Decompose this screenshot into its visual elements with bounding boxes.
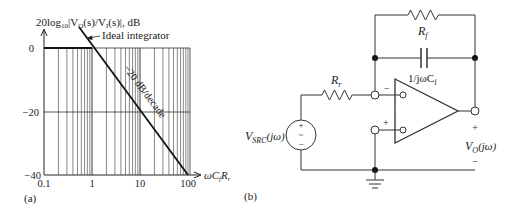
panel-b-label: (b) [244, 190, 257, 203]
x-tick-10: 10 [135, 178, 146, 189]
x-tick-0.1: 0.1 [37, 178, 50, 189]
integrator-circuit [286, 10, 479, 188]
slope-label: −20 dB/decade [121, 63, 168, 120]
y-axis-title: 20log10|VO(s)/VI(s)|, dB [36, 16, 140, 30]
x-axis-title: ωCfRr [204, 169, 231, 183]
source-plus: + [298, 120, 303, 130]
x-tick-1: 1 [89, 178, 94, 189]
opamp-triangle-icon [395, 79, 458, 143]
y-tick-minus20: −20 [23, 107, 39, 118]
ground-icon [366, 180, 384, 188]
opamp-noninv-pin [400, 127, 406, 133]
rf-label: Rf [417, 24, 429, 40]
rr-label: Rr [330, 73, 342, 89]
cf-label: 1/jωCf [408, 72, 437, 87]
ideal-integrator-label: Ideal integrator [102, 29, 170, 41]
opamp-plus-sign: + [383, 117, 389, 128]
x-tick-100: 100 [180, 178, 196, 189]
vo-label: VO(jω) [465, 139, 497, 155]
input-resistor-wire [301, 90, 371, 120]
panel-a-label: (a) [24, 192, 37, 205]
noninverting-terminal [371, 126, 379, 134]
vsrc-label: VSRC(jω) [245, 129, 285, 145]
vo-plus: + [472, 122, 478, 133]
output-terminal [471, 107, 479, 115]
inverting-terminal [371, 91, 379, 99]
ideal-integrator-line [79, 27, 188, 175]
y-tick-0: 0 [29, 43, 34, 54]
circuit-labels: Rf 1/jωCf Rr − + + ~ − VSRC(jω) + VO(jω)… [244, 24, 497, 203]
bode-plot: 20log10|VO(s)/VI(s)|, dB Ideal integrato… [23, 16, 231, 205]
vo-minus: − [472, 156, 478, 167]
opamp-inv-pin [400, 92, 406, 98]
ground-return-wire [301, 150, 475, 170]
source-minus: − [298, 139, 303, 149]
opamp-minus-sign: − [384, 83, 390, 94]
figure: 20log10|VO(s)/VI(s)|, dB Ideal integrato… [0, 0, 511, 213]
